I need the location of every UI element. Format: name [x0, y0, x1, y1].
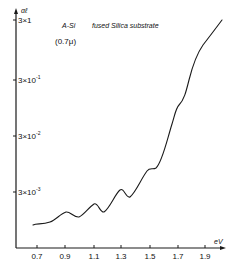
x-axis-unit: eV: [214, 238, 224, 245]
x-tick-label: 0.7: [31, 252, 43, 261]
x-axis-arrow-icon: [220, 246, 226, 250]
y-ticks: 3×1 3×10-1 3×10-2 3×10-3: [13, 16, 41, 197]
material-label: A-Si: [61, 22, 76, 29]
x-tick-label: 0.9: [59, 252, 71, 261]
x-tick-label: 1.9: [199, 252, 211, 261]
y-axis-arrow-icon: [14, 8, 18, 14]
y-tick-label: 3×10-1: [18, 74, 41, 85]
x-tick-label: 1.7: [172, 252, 184, 261]
x-tick-label: 1.5: [144, 252, 156, 261]
y-tick-label: 3×1: [18, 16, 32, 25]
y-tick-label: 3×10-3: [18, 186, 41, 197]
y-axis-title: αℓ: [21, 7, 28, 14]
y-tick-label: 3×10-2: [18, 130, 41, 141]
thickness-label: (0.7μ): [55, 37, 76, 46]
x-tick-label: 1.1: [88, 252, 100, 261]
absorption-chart: αℓ 3×1 3×10-1 3×10-2 3×10-3 0.7 0.9 1.1 …: [0, 0, 235, 271]
absorption-curve: [33, 20, 222, 225]
substrate-label: fused Silica substrate: [92, 22, 159, 29]
x-tick-label: 1.3: [115, 252, 127, 261]
